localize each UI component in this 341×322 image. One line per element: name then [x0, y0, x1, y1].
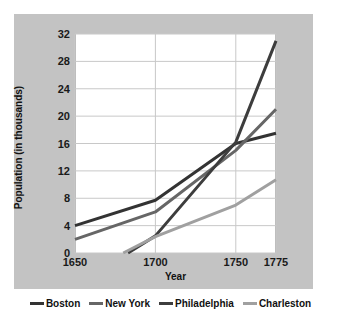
legend-swatch-icon: [159, 302, 173, 305]
x-axis-title: Year: [75, 271, 276, 282]
chart-figure: 048121620242832 1650170017501775 Populat…: [0, 0, 341, 322]
y-tick-label: 20: [44, 111, 70, 122]
x-tick-label: 1775: [253, 256, 299, 268]
x-tick-label: 1750: [213, 256, 259, 268]
y-axis-title: Population (in thousands): [13, 68, 24, 228]
legend-swatch-icon: [30, 302, 44, 305]
chart-legend: BostonNew YorkPhiladelphiaCharleston: [0, 298, 341, 309]
plot-area: [75, 34, 276, 253]
y-tick-label: 28: [44, 56, 70, 67]
y-tick-label: 4: [44, 221, 70, 232]
legend-swatch-icon: [89, 302, 103, 305]
x-tick-label: 1700: [132, 256, 178, 268]
y-tick-label: 16: [44, 139, 70, 150]
legend-label: Boston: [46, 298, 80, 309]
legend-label: New York: [105, 298, 150, 309]
legend-label: Philadelphia: [175, 298, 234, 309]
x-tick-label: 1650: [52, 256, 98, 268]
legend-item-boston[interactable]: Boston: [30, 298, 80, 309]
legend-item-philadelphia[interactable]: Philadelphia: [159, 298, 234, 309]
y-tick-label: 8: [44, 193, 70, 204]
legend-item-charleston[interactable]: Charleston: [243, 298, 311, 309]
legend-swatch-icon: [243, 302, 257, 305]
y-tick-label: 24: [44, 84, 70, 95]
legend-item-new-york[interactable]: New York: [89, 298, 150, 309]
y-axis-tick-labels: 048121620242832: [40, 0, 70, 322]
y-tick-label: 32: [44, 29, 70, 40]
legend-label: Charleston: [259, 298, 311, 309]
y-tick-label: 12: [44, 166, 70, 177]
